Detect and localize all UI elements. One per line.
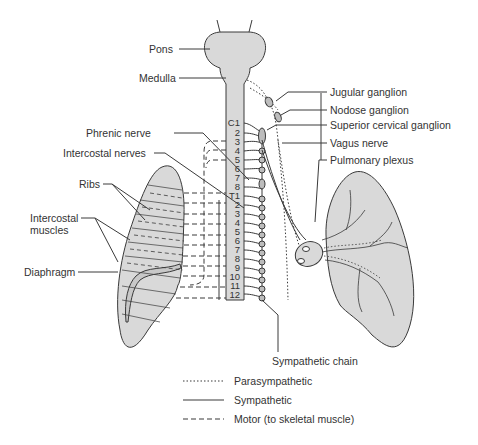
label-medulla: Medulla [139, 72, 176, 84]
label-intercostal-nerves: Intercostal nerves [63, 147, 146, 159]
legend-parasympathetic: Parasympathetic [234, 375, 312, 387]
legend-sympathetic: Sympathetic [234, 394, 292, 406]
sympathetic-chain [244, 123, 266, 301]
label-sympathetic-chain: Sympathetic chain [272, 355, 358, 367]
pulmonary-plexus [291, 237, 327, 271]
label-pons: Pons [149, 43, 173, 55]
leader-lines [78, 49, 327, 352]
label-jugular-ganglion: Jugular ganglion [330, 86, 407, 98]
label-diaphragm: Diaphragm [24, 266, 75, 278]
label-pulmonary-plexus: Pulmonary plexus [330, 154, 413, 166]
label-ribs: Ribs [79, 178, 100, 190]
segment-t12: 12 [220, 290, 240, 300]
legend-motor: Motor (to skeletal muscle) [234, 413, 354, 425]
label-nodose-ganglion: Nodose ganglion [330, 104, 409, 116]
nodose-ganglion-shape [273, 111, 282, 122]
left-lung [118, 166, 184, 348]
right-lung [322, 171, 414, 346]
vagus-nerve [247, 80, 300, 300]
label-intercostal-muscles-1: Intercostal [30, 212, 78, 224]
label-superior-cervical-ganglion: Superior cervical ganglion [330, 119, 451, 131]
label-vagus-nerve: Vagus nerve [330, 137, 388, 149]
legend-swatches [183, 381, 224, 419]
label-intercostal-muscles-2: muscles [30, 224, 69, 236]
label-phrenic-nerve: Phrenic nerve [86, 127, 151, 139]
